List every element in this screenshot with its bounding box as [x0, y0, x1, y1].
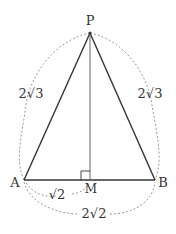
- vertex-p-dot: [89, 32, 92, 35]
- length-am: √2: [49, 187, 66, 202]
- label-b: B: [158, 175, 168, 190]
- length-ab: 2√2: [82, 206, 107, 221]
- side-pa: [24, 33, 90, 180]
- triangle-diagram: P A B M 2√3 2√3 √2 2√2: [0, 0, 176, 234]
- length-pb: 2√3: [138, 86, 163, 101]
- right-angle-mark: [81, 171, 90, 180]
- length-pa: 2√3: [19, 86, 44, 101]
- label-m: M: [85, 182, 97, 196]
- label-a: A: [9, 175, 20, 190]
- side-pb: [90, 33, 155, 180]
- label-p: P: [86, 13, 95, 28]
